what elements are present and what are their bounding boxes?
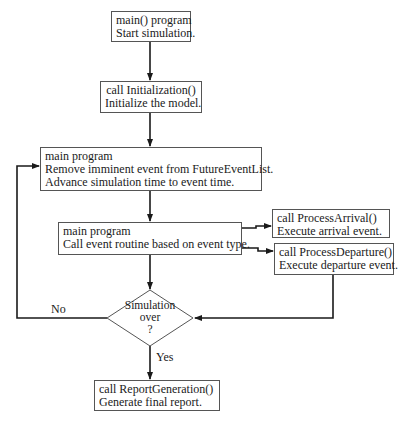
decision-line-3: ? (110, 323, 190, 335)
report-generation-node: call ReportGeneration() Generate final r… (94, 380, 220, 411)
start-node-desc: Start simulation. (116, 27, 186, 40)
dispatch-event-node: main program Call event routine based on… (58, 222, 242, 255)
dispatch-event-node-desc: Call event routine based on event type. (63, 238, 237, 251)
start-node: main() program Start simulation. (111, 11, 191, 42)
decision-line-2: over (110, 311, 190, 323)
advance-time-node-advance: Advance simulation time to event time. (45, 176, 257, 189)
advance-time-node: main program Remove imminent event from … (40, 147, 262, 191)
yes-branch-label: Yes (156, 351, 173, 364)
decision-line-1: Simulation (110, 299, 190, 311)
process-arrival-node: call ProcessArrival() Execute arrival ev… (272, 209, 390, 238)
decision-label: Simulation over ? (110, 299, 190, 335)
process-departure-node-desc: Execute departure event. (279, 259, 389, 272)
initialization-node-desc: Initialize the model. (105, 97, 197, 110)
no-branch-label: No (51, 303, 66, 316)
process-arrival-node-desc: Execute arrival event. (277, 225, 385, 238)
initialization-node: call Initialization() Initialize the mod… (100, 81, 202, 113)
process-departure-node: call ProcessDeparture() Execute departur… (274, 243, 394, 275)
report-generation-node-desc: Generate final report. (99, 396, 215, 409)
